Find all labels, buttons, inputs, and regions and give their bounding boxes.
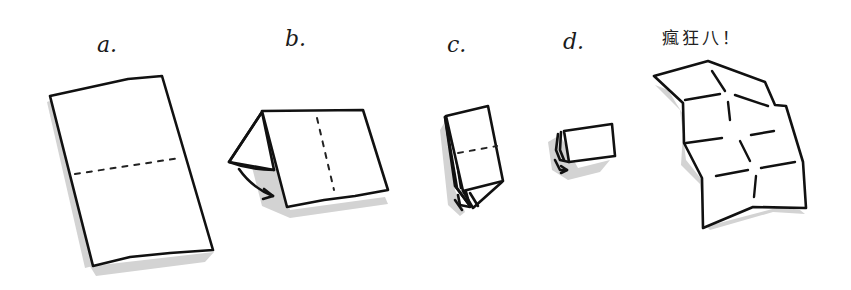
step-c-sheet — [440, 106, 503, 216]
step-a-sheet — [47, 76, 214, 276]
result-sheet — [654, 61, 806, 230]
folding-illustration — [0, 0, 851, 290]
step-d-sheet — [548, 124, 615, 180]
step-b-sheet — [229, 110, 388, 218]
folding-diagram: a. b. c. d. 瘋狂八！ — [0, 0, 851, 290]
